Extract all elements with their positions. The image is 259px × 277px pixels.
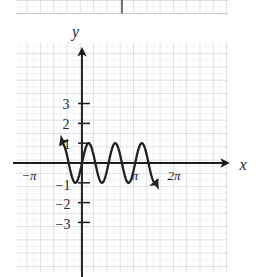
graph-figure: y 3 2 1 −1 −2 −3 [0, 0, 259, 277]
y-tick-label-2: 2 [63, 117, 70, 132]
graph-canvas: y 3 2 1 −1 −2 −3 [0, 0, 259, 277]
grid-background [16, 42, 228, 272]
x-tick-label-2pi: 2π [167, 168, 181, 183]
y-tick-label-neg3: −3 [56, 217, 71, 232]
x-tick-label-neg-pi: −π [21, 168, 37, 183]
plot-grid [16, 42, 228, 272]
y-tick-label-neg2: −2 [56, 197, 71, 212]
y-tick-label-3: 3 [63, 97, 70, 112]
y-axis-label: y [70, 23, 80, 41]
previous-figure-grid-strip [16, 0, 228, 14]
y-tick-label-neg1: −1 [56, 178, 71, 193]
x-axis-label: x [238, 156, 246, 173]
